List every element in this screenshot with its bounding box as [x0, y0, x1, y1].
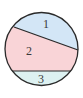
circle-diagram: 1 2 3: [0, 0, 83, 98]
region-2-label: 2: [26, 44, 32, 58]
region-1-label: 1: [43, 17, 49, 31]
region-3-label: 3: [38, 72, 44, 86]
